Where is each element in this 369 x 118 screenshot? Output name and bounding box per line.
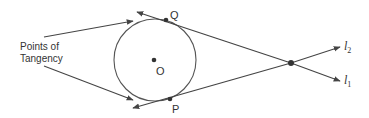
tangent-diagram: O Q P l2 l1 Points of Tangency [0, 0, 369, 118]
pointer-arrow-bottom [44, 66, 133, 100]
tangent-point-q [164, 18, 169, 23]
center-point [152, 58, 157, 63]
l2-label: l2 [344, 39, 351, 55]
tangent-point-p [168, 97, 173, 102]
intersection-point [288, 60, 294, 66]
l2-subscript: 2 [347, 46, 351, 55]
p-label: P [172, 103, 179, 115]
annotation-line-1: Points of [20, 41, 59, 52]
tangent-line-l2-right [291, 47, 340, 63]
l1-label: l1 [344, 73, 351, 89]
tangent-line-l1-right [291, 63, 340, 81]
pointer-arrow-top [44, 21, 133, 37]
tangent-line-l1 [137, 12, 291, 63]
l1-subscript: 1 [347, 80, 351, 89]
center-label: O [156, 65, 165, 77]
q-label: Q [170, 9, 179, 21]
annotation-line-2: Tangency [20, 53, 63, 64]
